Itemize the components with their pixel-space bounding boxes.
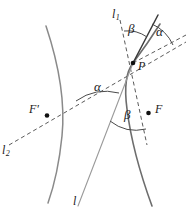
label-focus-near: F [155,103,162,115]
label-angle-beta-top: β [128,22,134,35]
label-l2: l2 [2,144,10,158]
label-focus-far: F' [29,103,39,115]
l1-dashed-line [120,20,147,145]
label-point-p: P [138,60,145,72]
label-angle-alpha-center: α [94,80,101,93]
angle-arc-beta-bottom [110,121,146,130]
label-l: l [73,195,76,207]
label-l1: l1 [112,8,120,22]
hyperbola-reflection-figure: l1 l2 l P F F' β α α β [0,0,194,217]
label-angle-beta-bottom: β [124,108,130,121]
point-p-dot [131,61,136,66]
focus-near-dot [146,111,151,116]
asymptote-ray-l [78,63,133,206]
right-hyperbola-branch-lower [126,63,152,206]
label-angle-alpha-top: α [156,25,163,38]
focus-far-dot [45,113,50,118]
tangent-ray-solid [133,15,158,63]
